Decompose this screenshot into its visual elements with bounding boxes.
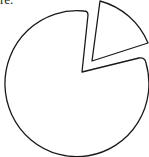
pie-slice-exploded (92, 1, 148, 61)
pie-chart (0, 0, 149, 157)
